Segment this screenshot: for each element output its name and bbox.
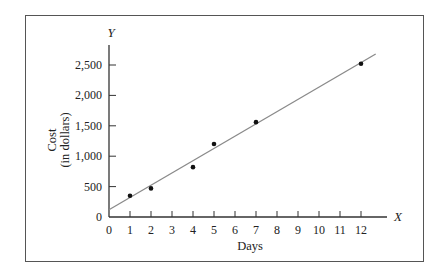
x-tick-label: 4 bbox=[190, 223, 196, 237]
data-point bbox=[359, 61, 364, 66]
x-tick-label: 12 bbox=[355, 223, 367, 237]
x-tick-label: 11 bbox=[334, 223, 346, 237]
y-tick-label: 1,000 bbox=[75, 149, 102, 163]
data-point bbox=[191, 165, 196, 170]
x-tick-label: 0 bbox=[106, 223, 112, 237]
data-point bbox=[254, 120, 259, 125]
x-axis-letter: X bbox=[393, 209, 403, 224]
data-point bbox=[212, 142, 217, 147]
y-tick-label: 2,500 bbox=[75, 58, 102, 72]
x-axis-label: Days bbox=[237, 239, 263, 253]
trend-line bbox=[109, 54, 376, 210]
data-point bbox=[128, 193, 133, 198]
y-tick-label: 500 bbox=[84, 180, 102, 194]
x-tick-label: 3 bbox=[169, 223, 175, 237]
y-axis-label-line1: Cost bbox=[45, 128, 59, 151]
y-axis-label-line2: (in dollars) bbox=[58, 112, 72, 167]
y-tick-label: 0 bbox=[96, 210, 102, 224]
x-tick-label: 7 bbox=[253, 223, 259, 237]
y-axis-letter: Y bbox=[107, 25, 116, 40]
axes bbox=[109, 45, 387, 217]
x-tick-label: 10 bbox=[313, 223, 325, 237]
x-tick-label: 1 bbox=[127, 223, 133, 237]
y-tick-label: 1,500 bbox=[75, 119, 102, 133]
x-tick-label: 8 bbox=[274, 223, 280, 237]
x-tick-label: 5 bbox=[211, 223, 217, 237]
data-point bbox=[149, 186, 154, 191]
x-tick-label: 9 bbox=[295, 223, 301, 237]
y-tick-label: 2,000 bbox=[75, 88, 102, 102]
x-tick-label: 2 bbox=[148, 223, 154, 237]
x-tick-label: 6 bbox=[232, 223, 238, 237]
scatter-chart: 012345678910111205001,0001,5002,0002,500… bbox=[0, 0, 446, 277]
